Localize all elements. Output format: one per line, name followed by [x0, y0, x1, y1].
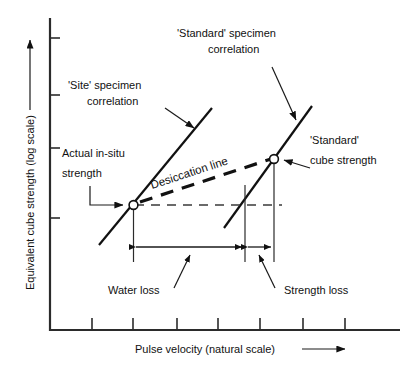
- site-correlation-label-line1: 'Site' specimen: [68, 79, 141, 91]
- standard-correlation-line: [224, 106, 312, 228]
- standard-cube-label: 'Standard' cube strength: [310, 134, 377, 166]
- site-correlation-label: 'Site' specimen correlation: [68, 79, 141, 107]
- standard-correlation-leader: [272, 67, 296, 120]
- figure-container: Equivalent cube strength (log scale) Pul…: [0, 0, 405, 372]
- y-axis-label-group: Equivalent cube strength (log scale): [24, 40, 36, 290]
- standard-cube-leader: [284, 160, 310, 168]
- strength-loss-leader: [259, 255, 275, 288]
- x-axis-label: Pulse velocity (natural scale): [135, 343, 275, 355]
- standard-correlation-label-line1: 'Standard' specimen: [177, 27, 276, 39]
- standard-cube-label-line2: cube strength: [310, 154, 377, 166]
- standard-correlation-label-line2: correlation: [208, 43, 259, 55]
- diagram-svg: Equivalent cube strength (log scale) Pul…: [0, 0, 405, 372]
- y-axis-ticks: [50, 38, 60, 218]
- circle-marker: [129, 201, 138, 210]
- standard-cube-label-line1: 'Standard': [310, 134, 359, 146]
- actual-in-situ-label: Actual in-situ strength: [62, 147, 125, 179]
- x-axis-label-group: Pulse velocity (natural scale): [135, 343, 345, 355]
- strength-loss-label: Strength loss: [284, 284, 349, 296]
- circle-marker: [270, 155, 279, 164]
- actual-in-situ-leader: [90, 186, 123, 205]
- water-loss-label: Water loss: [108, 284, 160, 296]
- standard-correlation-label: 'Standard' specimen correlation: [177, 27, 276, 55]
- site-correlation-leader: [165, 108, 194, 128]
- water-loss-leader: [174, 255, 190, 288]
- site-correlation-label-line2: correlation: [87, 95, 138, 107]
- x-axis-ticks: [92, 318, 345, 330]
- actual-in-situ-label-line2: strength: [62, 167, 102, 179]
- actual-in-situ-label-line1: Actual in-situ: [62, 147, 125, 159]
- standard-cube-marker: [270, 155, 279, 164]
- y-axis-label: Equivalent cube strength (log scale): [24, 115, 36, 290]
- actual-in-situ-marker: [129, 201, 138, 210]
